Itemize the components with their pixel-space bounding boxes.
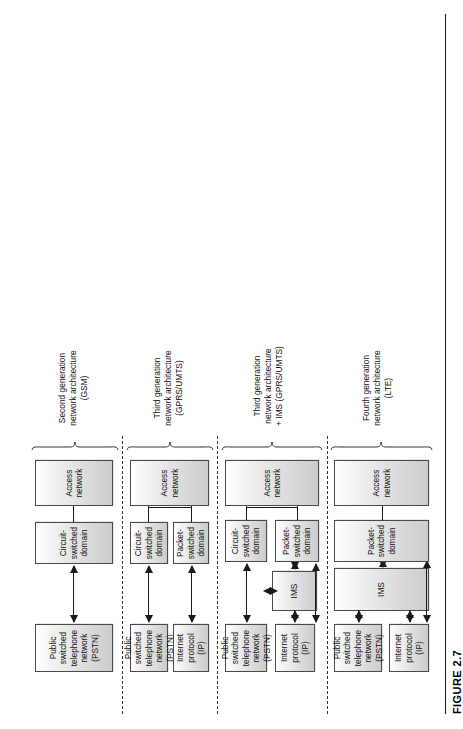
section-divider-gsm-umts [122,436,123,714]
ims-section-cs-domain-label: Circuit-switched domain [230,523,261,559]
lte-access-network-box: Access network [334,460,429,506]
lte-section-label: Fourth generation network architecture (… [361,338,394,438]
section-divider-ims-lte [327,436,328,714]
ims-section-ip-ims-arrowhead-right [291,610,299,618]
umts-pstn-cs-connector [148,566,149,622]
umts-ps-domain-box: Packet-switched domain [173,522,209,564]
umts-section-label: Third generation network architecture (G… [152,338,185,438]
umts-cs-domain-box: Circuit-switched domain [130,522,168,564]
rotated-figure-canvas: Public switched telephone network (PSTN)… [27,14,357,714]
umts-ip-ps-arrowhead-right [188,565,196,573]
lte-ip-ps-connector [426,561,427,622]
umts-ip-ps-arrowhead-left [188,615,196,623]
lte-ip-ps-arrowhead-left [423,615,431,623]
ims-section-brace [221,441,323,451]
network-architecture-diagram: Public switched telephone network (PSTN)… [27,14,357,714]
ims-section-ip-box: Internet protocol (IP) [275,624,315,672]
umts-ps-access-connector [191,506,192,522]
ims-section-ip-ps-arrowhead-left [312,615,320,623]
ims-section-ip-ps-connector [315,564,316,622]
umts-pstn-cs-arrowhead-right [145,565,153,573]
lte-ps-domain-label: Packet-switched domain [366,523,397,559]
gsm-access-network-box: Access network [35,460,113,506]
lte-ims-box: IMS [334,568,429,611]
ims-section-ps-domain-label: Packet-switched domain [281,523,312,559]
gsm-cs-domain-label: Circuit-switched domain [58,525,89,561]
umts-access-network-label: Access network [159,463,180,503]
ims-section-ims-ps-arrowhead-right [291,561,299,569]
ims-section-pstn-box: Public switched telephone network (PSTN) [225,624,267,672]
gsm-section-brace [31,441,119,451]
lte-ip-box: Internet protocol (IP) [389,624,429,672]
figure-caption: FIGURE 2.7 [451,650,463,714]
ims-section-label: Third generation network architecture + … [252,334,285,438]
ims-section-access-bus [246,507,298,508]
ims-section-access-network-box: Access network [225,460,319,506]
umts-pstn-box: Public switched telephone network (PSTN) [130,624,168,672]
lte-pstn-label: Public switched telephone network (PSTN) [332,627,384,669]
figure-rule [445,14,446,714]
lte-ip-ims-arrowhead-right [406,610,414,618]
ims-section-pstn-cs-arrowhead-left [243,615,251,623]
umts-cs-access-connector [148,506,149,522]
gsm-cs-access-connector [73,506,74,522]
ims-section-ip-ps-arrowhead-right [312,563,320,571]
ims-section-ps-domain-box: Packet-switched domain [275,520,319,562]
lte-access-network-label: Access network [371,463,392,503]
ims-section-ps-access-connector [297,506,298,520]
lte-ps-domain-box: Packet-switched domain [334,520,429,562]
ims-section-pstn-cs-connector [246,564,247,622]
umts-access-network-box: Access network [130,460,209,506]
umts-ip-box: Internet protocol (IP) [173,624,209,672]
ims-section-ims-label: IMS [289,584,299,599]
ims-section-cs-domain-box: Circuit-switched domain [225,520,267,562]
gsm-cs-domain-box: Circuit-switched domain [35,522,113,564]
gsm-pstn-cs-connector [73,566,74,622]
section-divider-umts-ims [217,436,218,714]
ims-section-ip-label: Internet protocol (IP) [279,627,310,669]
lte-ip-label: Internet protocol (IP) [393,627,424,669]
lte-ims-label: IMS [376,582,386,597]
ims-section-ims-box: IMS [272,571,317,611]
gsm-pstn-box: Public switched telephone network (PSTN) [35,624,113,672]
lte-pstn-box: Public switched telephone network (PSTN) [334,624,382,672]
ims-section-cs-access-connector [246,506,247,520]
umts-ps-domain-label: Packet-switched domain [175,525,206,561]
ims-section-pstn-ims-arrowhead-down [270,587,278,595]
gsm-pstn-cs-arrowhead-left [70,615,78,623]
umts-cs-domain-label: Circuit-switched domain [133,525,164,561]
umts-ip-ps-connector [191,566,192,622]
ims-section-pstn-label: Public switched telephone network (PSTN) [220,627,272,669]
umts-section-brace [126,441,214,451]
ims-section-pstn-cs-arrowhead-right [243,563,251,571]
lte-pstn-ims-arrowhead-right [355,610,363,618]
gsm-section-label: Second generation network architecture (… [57,338,90,438]
umts-pstn-label: Public switched telephone network (PSTN) [123,627,175,669]
ims-section-access-network-label: Access network [262,463,283,503]
lte-section-brace [330,441,433,451]
lte-ps-access-connector [382,506,383,520]
umts-pstn-cs-arrowhead-left [145,615,153,623]
gsm-access-network-label: Access network [64,463,85,503]
umts-ip-label: Internet protocol (IP) [175,627,206,669]
gsm-pstn-cs-arrowhead-right [70,565,78,573]
gsm-pstn-label: Public switched telephone network (PSTN) [48,627,100,669]
umts-access-bus [148,507,192,508]
